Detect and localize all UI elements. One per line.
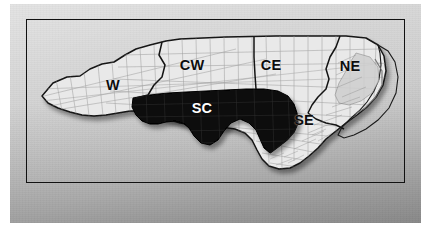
map-figure: W CW CE NE SC SE (0, 0, 428, 229)
north-carolina-map[interactable] (26, 19, 405, 183)
